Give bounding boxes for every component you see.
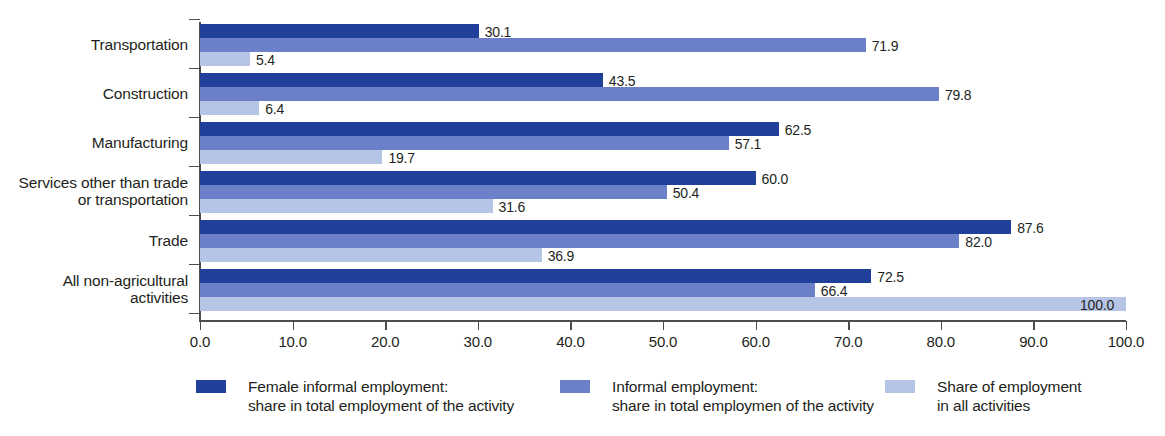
bar-value-label: 6.4 — [265, 102, 284, 116]
bar — [200, 73, 603, 87]
y-axis-tick — [189, 117, 200, 118]
bar — [200, 220, 1011, 234]
plot-area: TransportationConstructionManufacturingS… — [0, 0, 1165, 372]
category-label: Transportation — [0, 36, 188, 53]
bar-value-label: 57.1 — [735, 137, 761, 151]
bar — [200, 234, 959, 248]
legend-item[interactable]: Informal employment: share in total empl… — [560, 377, 874, 415]
bar-value-label: 5.4 — [256, 53, 275, 67]
bar-value-label: 62.5 — [785, 123, 811, 137]
bar-value-label: 50.4 — [673, 186, 699, 200]
bar — [200, 150, 382, 164]
bar — [200, 101, 259, 115]
chart-legend: Female informal employment: share in tot… — [0, 372, 1165, 436]
category-label: Manufacturing — [0, 134, 188, 151]
x-axis-tick — [293, 321, 294, 330]
x-axis-tick-label: 70.0 — [834, 334, 862, 350]
legend-label: Share of employment in all activities — [937, 377, 1081, 415]
x-axis-tick-label: 10.0 — [278, 334, 306, 350]
bar — [200, 38, 866, 52]
bar — [200, 185, 667, 199]
bar-group: 60.050.431.6 — [200, 171, 1126, 213]
bar-group: 72.566.4100.0 — [200, 269, 1126, 311]
x-axis-tick — [1033, 321, 1034, 330]
x-axis-tick — [570, 321, 571, 330]
bar — [200, 171, 756, 185]
y-axis-tick — [189, 19, 200, 20]
x-axis-tick — [200, 321, 201, 330]
x-axis-tick-label: 30.0 — [464, 334, 492, 350]
legend-item[interactable]: Female informal employment: share in tot… — [196, 377, 514, 415]
bar — [200, 52, 250, 66]
legend-swatch — [560, 380, 590, 393]
bar-value-label: 30.1 — [485, 25, 511, 39]
x-axis-tick-label: 20.0 — [371, 334, 399, 350]
bar-value-label: 87.6 — [1017, 221, 1043, 235]
legend-label: Informal employment: share in total empl… — [612, 377, 874, 415]
bar — [200, 297, 1126, 311]
bar-value-label: 82.0 — [965, 235, 991, 249]
x-axis-tick — [1126, 321, 1127, 330]
bar-value-label: 100.0 — [1080, 298, 1114, 312]
legend-label: Female informal employment: share in tot… — [248, 377, 514, 415]
bar — [200, 248, 542, 262]
bar — [200, 283, 815, 297]
bar-value-label: 71.9 — [872, 39, 898, 53]
bar-group: 30.171.95.4 — [200, 24, 1126, 66]
bar-value-label: 79.8 — [945, 88, 971, 102]
x-axis-tick — [663, 321, 664, 330]
x-axis-tick-label: 50.0 — [649, 334, 677, 350]
bar-value-label: 36.9 — [548, 249, 574, 263]
x-axis-tick-label: 0.0 — [190, 334, 210, 350]
category-axis-labels: TransportationConstructionManufacturingS… — [0, 0, 188, 320]
y-axis-tick — [189, 166, 200, 167]
bar — [200, 269, 871, 283]
bar-value-label: 66.4 — [821, 284, 847, 298]
bar-value-label: 72.5 — [877, 270, 903, 284]
bar-group: 87.682.036.9 — [200, 220, 1126, 262]
y-axis-tick — [189, 264, 200, 265]
x-axis-tick-label: 80.0 — [927, 334, 955, 350]
bar-value-label: 19.7 — [388, 151, 414, 165]
y-axis-tick — [189, 313, 200, 314]
x-axis-tick — [848, 321, 849, 330]
legend-swatch — [885, 380, 915, 393]
bar — [200, 24, 479, 38]
bar-value-label: 60.0 — [762, 172, 788, 186]
category-label: Services other than trade or transportat… — [0, 174, 188, 208]
x-axis-tick-label: 40.0 — [556, 334, 584, 350]
x-axis-tick — [756, 321, 757, 330]
chart-figure: TransportationConstructionManufacturingS… — [0, 0, 1165, 436]
x-axis-tick — [478, 321, 479, 330]
y-axis-tick — [189, 68, 200, 69]
bar-group: 43.579.86.4 — [200, 73, 1126, 115]
y-axis-tick — [189, 215, 200, 216]
legend-item[interactable]: Share of employment in all activities — [885, 377, 1081, 415]
x-axis-tick — [941, 321, 942, 330]
category-label: Construction — [0, 85, 188, 102]
x-axis-tick-label: 60.0 — [741, 334, 769, 350]
legend-swatch — [196, 380, 226, 393]
x-axis-tick — [385, 321, 386, 330]
category-label: Trade — [0, 232, 188, 249]
x-axis-tick-label: 90.0 — [1019, 334, 1047, 350]
bar-group: 62.557.119.7 — [200, 122, 1126, 164]
bar-value-label: 31.6 — [499, 200, 525, 214]
bar — [200, 199, 493, 213]
bar — [200, 87, 939, 101]
bar-value-label: 43.5 — [609, 74, 635, 88]
x-axis-tick-label: 100.0 — [1108, 334, 1145, 350]
bar — [200, 122, 779, 136]
bar — [200, 136, 729, 150]
category-label: All non-agricultural activities — [0, 272, 188, 306]
